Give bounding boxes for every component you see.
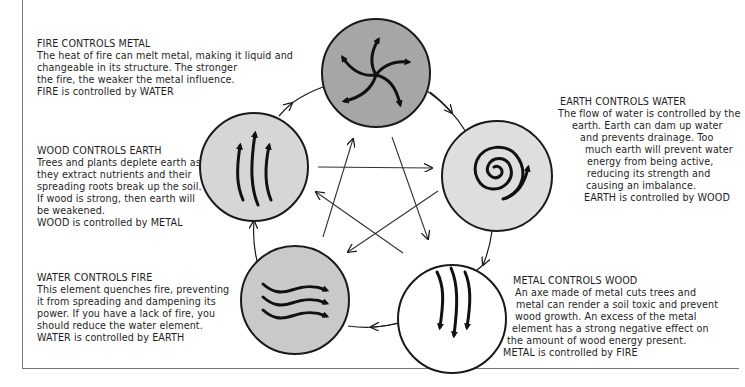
earth-line: reducing its strength and	[587, 168, 745, 180]
water-element	[241, 246, 349, 354]
arc-wood-to-fire-tail	[292, 87, 323, 103]
arrow-water-to-fire	[323, 139, 353, 237]
fire-controlled-by: FIRE is controlled by WATER	[37, 86, 293, 98]
water-line: power. If you have a lack of fire, you	[37, 308, 229, 320]
wood-line: Trees and plants deplete earth as	[37, 157, 202, 169]
arc-metal-to-water-tail	[348, 326, 376, 327]
metal-line: An axe made of metal cuts trees and	[515, 287, 717, 299]
earth-line: energy from being active,	[587, 156, 745, 168]
metal-line: element has a strong negative effect on	[512, 323, 714, 335]
water-line: it from spreading and dampening its	[37, 296, 229, 308]
earth-description: EARTH CONTROLS WATER The flow of water i…	[560, 96, 738, 204]
water-controlled-by: WATER is controlled by EARTH	[37, 332, 229, 344]
earth-line: causing an imbalance.	[586, 180, 745, 192]
arc-earth-to-metal-tail	[477, 265, 483, 270]
wood-description: WOOD CONTROLS EARTH Trees and plants dep…	[37, 145, 202, 229]
fire-title: FIRE CONTROLS METAL	[37, 38, 293, 50]
arrow-wood-to-earth	[318, 167, 432, 168]
metal-title: METAL CONTROLS WOOD	[513, 275, 715, 287]
earth-line: much earth will prevent water	[585, 144, 745, 156]
metal-controlled-by: METAL is controlled by FIRE	[503, 347, 705, 359]
wood-element	[200, 113, 308, 221]
arrow-earth-to-water	[348, 191, 438, 252]
arc-wood-to-fire	[279, 103, 292, 116]
metal-element	[398, 265, 506, 373]
earth-controlled-by: EARTH is controlled by WOOD	[584, 192, 745, 204]
earth-element	[442, 121, 552, 231]
wood-title: WOOD CONTROLS EARTH	[37, 145, 202, 157]
wood-controlled-by: WOOD is controlled by METAL	[37, 217, 202, 229]
wood-line: they extract nutrients and their	[37, 169, 202, 181]
fire-element	[322, 19, 430, 127]
metal-description: METAL CONTROLS WOOD An axe made of metal…	[503, 275, 705, 359]
earth-line: The flow of water is controlled by the	[558, 108, 736, 120]
wood-line: be weakened.	[37, 205, 202, 217]
water-line: should reduce the water element.	[37, 320, 229, 332]
metal-line: the amount of wood energy present.	[507, 335, 709, 347]
earth-title: EARTH CONTROLS WATER	[560, 96, 738, 108]
fire-line: The heat of fire can melt metal, making …	[37, 50, 293, 62]
fire-line: changeable in its structure. The stronge…	[37, 62, 293, 74]
metal-line: metal can render a soil toxic and preven…	[516, 299, 718, 311]
wood-line: spreading roots break up the soil.	[37, 181, 202, 193]
earth-line: and prevents drainage. Too	[580, 132, 745, 144]
fire-description: FIRE CONTROLS METAL The heat of fire can…	[37, 38, 293, 98]
water-line: This element quenches fire, preventing	[37, 284, 229, 296]
earth-line: earth. Earth can dam up water	[572, 120, 745, 132]
water-title: WATER CONTROLS FIRE	[37, 272, 229, 284]
water-description: WATER CONTROLS FIRE This element quenche…	[37, 272, 229, 344]
metal-line: wood growth. An excess of the metal	[515, 311, 717, 323]
arc-fire-to-earth	[427, 91, 466, 132]
wood-line: If wood is strong, then earth will	[37, 193, 202, 205]
arrow-fire-to-metal	[392, 137, 428, 239]
arc-earth-to-metal	[483, 231, 492, 265]
inner-star	[316, 137, 438, 253]
fire-line: the fire, the weaker the metal influence…	[37, 74, 293, 86]
